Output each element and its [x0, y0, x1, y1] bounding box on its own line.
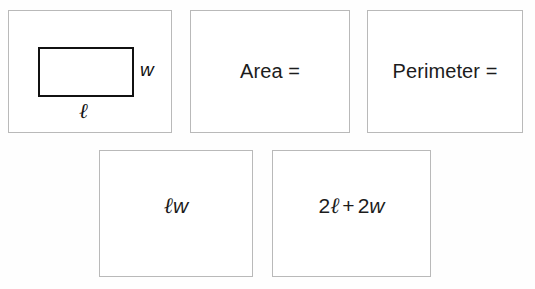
perimeter-expression-operator: +: [339, 194, 357, 217]
worksheet-canvas: w ℓ Area = Perimeter = ℓw 2ℓ+2w: [0, 0, 535, 289]
area-expression-length-symbol: ℓ: [164, 193, 173, 218]
area-label-text: Area =: [240, 60, 300, 83]
perimeter-expression-length-symbol: ℓ: [330, 193, 339, 218]
card-perimeter-expression[interactable]: 2ℓ+2w: [272, 150, 431, 277]
card-perimeter-label[interactable]: Perimeter =: [367, 10, 523, 133]
rectangle-shape-icon: [38, 47, 134, 97]
area-expression-width-symbol: w: [173, 194, 188, 217]
rectangle-length-label: ℓ: [79, 101, 88, 122]
rectangle-width-label: w: [140, 60, 154, 79]
card-area-label[interactable]: Area =: [190, 10, 350, 133]
perimeter-label-text: Perimeter =: [392, 60, 497, 83]
card-rectangle-figure[interactable]: w ℓ: [8, 10, 172, 133]
card-area-expression[interactable]: ℓw: [99, 150, 253, 277]
perimeter-expression-coefficient-two: 2: [358, 194, 370, 217]
perimeter-expression-width-symbol: w: [369, 194, 384, 217]
rectangle-diagram: w ℓ: [9, 10, 171, 133]
perimeter-expression-text: 2ℓ+2w: [319, 193, 385, 219]
perimeter-expression-coefficient-one: 2: [319, 194, 331, 217]
area-expression-text: ℓw: [164, 193, 188, 219]
